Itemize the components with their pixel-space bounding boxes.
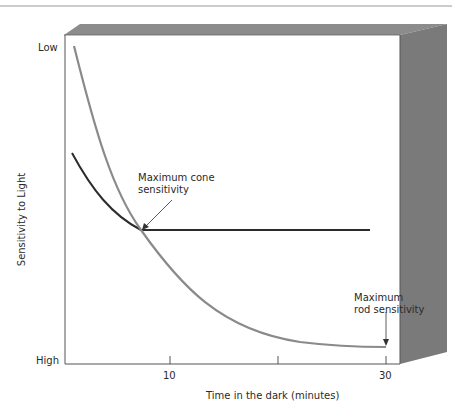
cone-sensitivity-curve [72, 153, 370, 230]
x-tick-label-10: 10 [163, 370, 176, 382]
rod-annotation-line1: Maximum [354, 292, 403, 304]
y-tick-high: High [36, 355, 59, 367]
frame-top-bevel [64, 24, 447, 35]
y-axis-title: Sensitivity to Light [16, 165, 27, 275]
rod-arrowhead-icon [383, 339, 389, 346]
y-tick-low: Low [38, 42, 58, 54]
rod-sensitivity-curve [74, 46, 386, 347]
cone-annotation-line2: sensitivity [138, 184, 189, 196]
chart-canvas [0, 0, 459, 406]
cone-annotation-line1: Maximum cone [138, 172, 215, 184]
x-tick-label-30: 30 [379, 370, 392, 382]
cone-annotation-arrow [145, 200, 172, 227]
x-axis-title: Time in the dark (minutes) [206, 390, 339, 402]
rod-annotation-line2: rod sensitivity [354, 304, 424, 316]
